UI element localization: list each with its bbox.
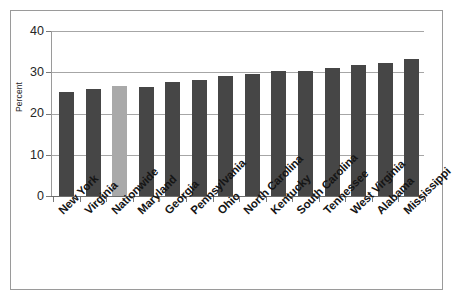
y-axis-title: Percent bbox=[14, 67, 24, 127]
gridline-20 bbox=[52, 114, 424, 115]
gridline-10 bbox=[52, 155, 424, 156]
gridline-30 bbox=[52, 72, 424, 73]
y-tick-label-10: 10 bbox=[14, 149, 44, 162]
gridline-40 bbox=[52, 31, 424, 32]
x-tick-mark-7 bbox=[239, 197, 240, 202]
bar-georgia bbox=[165, 82, 180, 196]
x-tick-mark-10 bbox=[319, 197, 320, 202]
bar-ohio bbox=[218, 76, 233, 196]
chart-figure: 40 30 20 10 0 Percent New YorkVirginiaNa… bbox=[0, 0, 452, 299]
x-tick-mark-11 bbox=[345, 197, 346, 202]
x-tick-mark-9 bbox=[292, 197, 293, 202]
x-tick-mark-0 bbox=[53, 197, 54, 202]
bar-new-york bbox=[59, 92, 74, 196]
y-tick-label-40: 40 bbox=[14, 25, 44, 38]
bar-nationwide bbox=[112, 86, 127, 196]
bar-tennessee bbox=[325, 68, 340, 196]
x-tick-mark-6 bbox=[213, 197, 214, 202]
bar-west-virginia bbox=[351, 65, 366, 196]
x-tick-mark-5 bbox=[186, 197, 187, 202]
bar-alabama bbox=[378, 63, 393, 196]
bar-north-carolina bbox=[245, 74, 260, 196]
bar-south-carolina bbox=[298, 71, 313, 196]
bar-mississippi bbox=[404, 59, 419, 196]
plot-area bbox=[52, 31, 424, 196]
x-tick-mark-2 bbox=[106, 197, 107, 202]
bar-virginia bbox=[86, 89, 101, 196]
x-tick-mark-13 bbox=[398, 197, 399, 202]
x-tick-mark-3 bbox=[133, 197, 134, 202]
y-axis-tick-labels: 40 30 20 10 0 bbox=[8, 0, 44, 299]
bar-maryland bbox=[139, 87, 154, 196]
x-tick-mark-4 bbox=[159, 197, 160, 202]
x-tick-mark-8 bbox=[266, 197, 267, 202]
y-tick-label-0: 0 bbox=[14, 190, 44, 203]
x-tick-mark-12 bbox=[372, 197, 373, 202]
x-tick-mark-end bbox=[425, 197, 426, 202]
bar-pennsylvania bbox=[192, 80, 207, 196]
bar-kentucky bbox=[271, 71, 286, 196]
x-tick-mark-1 bbox=[80, 197, 81, 202]
